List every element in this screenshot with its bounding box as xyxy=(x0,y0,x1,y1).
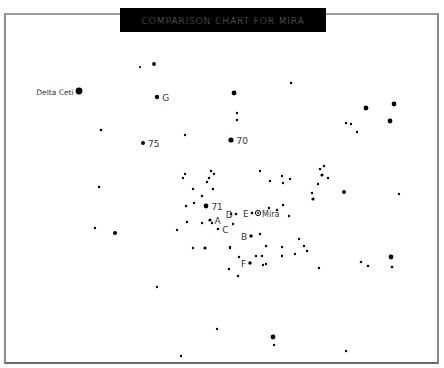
star xyxy=(319,168,321,170)
star xyxy=(327,177,329,179)
star xyxy=(192,247,194,249)
star xyxy=(152,62,156,66)
star xyxy=(238,256,240,258)
star xyxy=(265,263,267,265)
comparison-star xyxy=(76,88,83,95)
star xyxy=(212,188,214,190)
star-label: G xyxy=(162,93,169,103)
star xyxy=(206,181,208,183)
comparison-star xyxy=(249,234,252,237)
star xyxy=(203,246,206,249)
star xyxy=(342,190,346,194)
star xyxy=(269,180,271,182)
mira-label: Mira xyxy=(262,210,279,219)
star xyxy=(211,222,213,224)
star xyxy=(345,122,347,124)
star xyxy=(201,195,203,197)
star xyxy=(255,255,257,257)
star-label: 71 xyxy=(211,202,222,212)
star xyxy=(237,275,239,277)
star xyxy=(273,344,275,346)
star xyxy=(208,177,210,179)
star xyxy=(350,123,352,125)
star xyxy=(356,131,358,133)
star xyxy=(232,223,234,225)
star xyxy=(94,227,96,229)
star xyxy=(311,197,314,200)
star-label: 70 xyxy=(237,136,249,146)
star xyxy=(176,229,178,231)
star xyxy=(281,175,283,177)
star xyxy=(201,222,203,224)
comparison-star xyxy=(248,261,251,264)
comparison-chart: COMPARISON CHART FOR MIRA Delta CetiG757… xyxy=(0,0,444,368)
star xyxy=(236,119,238,121)
star xyxy=(265,245,267,247)
star xyxy=(398,193,400,195)
star xyxy=(193,202,195,204)
comparison-star xyxy=(141,141,145,145)
star xyxy=(391,266,394,269)
star-label: 75 xyxy=(148,139,159,149)
star xyxy=(229,246,231,248)
star xyxy=(232,91,237,96)
comparison-star xyxy=(235,213,238,216)
star xyxy=(213,173,215,175)
star xyxy=(290,82,292,84)
star xyxy=(364,106,369,111)
star-label: E xyxy=(243,209,249,219)
star xyxy=(392,102,397,107)
star xyxy=(282,182,284,184)
star-label: F xyxy=(241,259,246,269)
star-label: D xyxy=(226,210,233,220)
star xyxy=(360,261,363,264)
star xyxy=(259,170,261,172)
comparison-star xyxy=(155,95,159,99)
star xyxy=(271,335,276,340)
star xyxy=(184,134,186,136)
star xyxy=(182,177,184,179)
star xyxy=(317,183,319,185)
comparison-star xyxy=(217,228,220,231)
star xyxy=(288,215,290,217)
star xyxy=(113,231,117,235)
mira-center-dot xyxy=(257,212,259,214)
star xyxy=(303,245,305,247)
comparison-star xyxy=(208,218,211,221)
star xyxy=(289,178,291,180)
star xyxy=(186,221,188,223)
star xyxy=(318,267,320,269)
star xyxy=(262,264,264,266)
star xyxy=(388,119,393,124)
star xyxy=(139,66,141,68)
star xyxy=(323,165,325,167)
star-label: Delta Ceti xyxy=(36,88,73,97)
star xyxy=(100,129,103,132)
star xyxy=(261,255,263,257)
star-label: A xyxy=(215,216,222,226)
star xyxy=(228,268,230,270)
star xyxy=(281,255,283,257)
star xyxy=(320,173,323,176)
star xyxy=(236,112,238,114)
star xyxy=(259,233,261,235)
star xyxy=(282,204,284,206)
star-label: C xyxy=(222,225,228,235)
star-label: B xyxy=(241,232,247,242)
star xyxy=(345,350,347,352)
star xyxy=(98,186,100,188)
comparison-star xyxy=(228,137,233,142)
star xyxy=(306,250,308,252)
star xyxy=(294,253,296,255)
comparison-star xyxy=(204,204,209,209)
star xyxy=(367,265,370,268)
star-field: Delta CetiG757071ACDEBFMira xyxy=(0,0,444,368)
star xyxy=(298,238,300,240)
star xyxy=(184,173,186,175)
star xyxy=(281,246,283,248)
comparison-star xyxy=(251,212,254,215)
star xyxy=(180,355,182,357)
star xyxy=(311,192,313,194)
star xyxy=(192,188,194,190)
star xyxy=(216,328,218,330)
